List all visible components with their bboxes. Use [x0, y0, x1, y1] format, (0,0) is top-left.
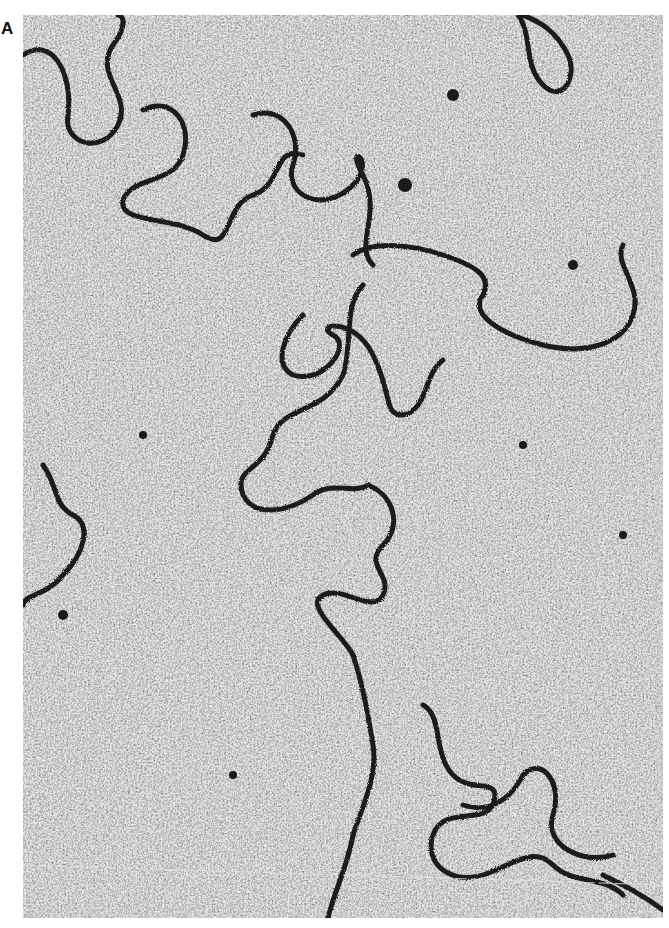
grain-background	[23, 15, 663, 918]
panel-label: A	[1, 20, 13, 37]
micrograph-graphic	[23, 15, 663, 918]
micrograph-image	[23, 15, 663, 918]
